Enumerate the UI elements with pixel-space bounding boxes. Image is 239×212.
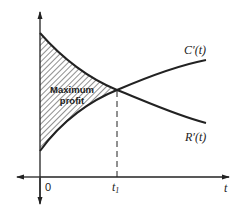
origin-label: 0 (45, 182, 51, 193)
maximum-profit-label: Maximum profit (44, 85, 100, 107)
cost-curve-label: C′(t) (184, 44, 206, 56)
profit-diagram (0, 0, 239, 212)
t1-label: t1 (112, 181, 119, 195)
maximum-profit-label-line1: Maximum (50, 84, 94, 95)
x-axis-label: t (224, 182, 227, 194)
t1-subscript: 1 (115, 186, 119, 195)
maximum-profit-label-line2: profit (60, 95, 84, 106)
revenue-curve-label: R′(t) (185, 131, 206, 143)
